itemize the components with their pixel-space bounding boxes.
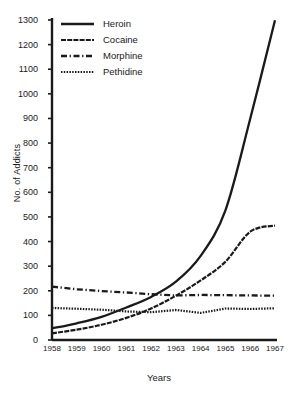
x-axis-tick-label: 1958 (43, 345, 61, 353)
legend: HeroinCocaineMorphinePethidine (61, 16, 143, 80)
x-axis-tick-label: 1963 (167, 345, 185, 353)
x-axis-tick-label: 1960 (93, 345, 111, 353)
x-axis-tick-labels: 1958195919601961196219631964196519661967 (0, 345, 292, 359)
legend-item: Cocaine (61, 32, 143, 48)
series-line-pethidine (52, 308, 275, 313)
plot-area (0, 0, 292, 394)
legend-swatch-cocaine-icon (61, 35, 94, 45)
x-axis-tick-label: 1966 (241, 345, 259, 353)
x-axis-tick-label: 1959 (68, 345, 86, 353)
legend-item: Pethidine (61, 64, 143, 80)
legend-item: Morphine (61, 48, 143, 64)
legend-item: Heroin (61, 16, 143, 32)
legend-swatch-morphine-icon (61, 51, 94, 61)
series-line-cocaine (52, 226, 275, 334)
legend-label: Heroin (103, 19, 131, 29)
x-axis-title: Years (0, 372, 292, 383)
legend-swatch-heroin-icon (61, 19, 94, 29)
drug-addicts-line-chart: No. of Addicts 0100200300400500600700800… (0, 0, 292, 394)
x-axis-tick-label: 1967 (266, 345, 284, 353)
legend-label: Cocaine (103, 35, 138, 45)
x-axis-tick-label: 1962 (142, 345, 160, 353)
legend-swatch-pethidine-icon (61, 67, 94, 77)
x-axis-tick-label: 1965 (217, 345, 235, 353)
legend-label: Morphine (103, 51, 143, 61)
x-axis-tick-label: 1964 (192, 345, 210, 353)
legend-label: Pethidine (103, 67, 143, 77)
x-axis-tick-label: 1961 (117, 345, 135, 353)
